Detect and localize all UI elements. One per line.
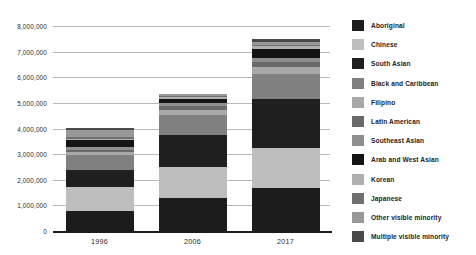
legend-item: Latin American (352, 112, 476, 131)
bar-segment (159, 198, 227, 231)
legend-item: Arab and West Asian (352, 150, 476, 169)
y-tick-label: 8,000,000 (17, 23, 47, 30)
bar-segment (159, 115, 227, 135)
legend-label: Japanese (371, 195, 402, 202)
bar-segment (66, 155, 134, 170)
bar-segment (66, 187, 134, 211)
bar-2006 (159, 94, 227, 231)
legend-item: South Asian (352, 54, 476, 73)
stacked-bar-chart: 01,000,0002,000,0003,000,0004,000,0005,0… (0, 0, 476, 255)
y-axis: 01,000,0002,000,0003,000,0004,000,0005,0… (0, 0, 50, 255)
y-tick-label: 7,000,000 (17, 48, 47, 55)
legend-label: Arab and West Asian (371, 156, 439, 163)
y-tick-label: 3,000,000 (17, 151, 47, 158)
x-tick-label: 1996 (66, 237, 134, 246)
y-tick-label: 0 (43, 228, 47, 235)
y-tick-label: 5,000,000 (17, 99, 47, 106)
legend-label: Aboriginal (371, 22, 405, 29)
legend-label: Other visible minority (371, 214, 441, 221)
bar-1996 (66, 128, 134, 231)
legend-label: Filipino (371, 99, 395, 106)
legend-swatch-icon (352, 97, 364, 108)
legend-swatch-icon (352, 212, 364, 223)
legend-item: Southeast Asian (352, 131, 476, 150)
legend-label: Chinese (371, 41, 398, 48)
legend-item: Black and Caribbean (352, 74, 476, 93)
bar-segment (66, 140, 134, 147)
bar-segment (159, 135, 227, 168)
chart-legend: AboriginalChineseSouth AsianBlack and Ca… (352, 16, 476, 246)
bar-2017 (252, 39, 320, 231)
legend-item: Filipino (352, 93, 476, 112)
legend-swatch-icon (352, 58, 364, 69)
bars-layer (53, 0, 332, 255)
x-tick-label: 2006 (159, 237, 227, 246)
legend-item: Japanese (352, 189, 476, 208)
legend-swatch-icon (352, 231, 364, 242)
plot-area: 01,000,0002,000,0003,000,0004,000,0005,0… (0, 0, 340, 255)
x-tick-label: 2017 (252, 237, 320, 246)
x-axis: 199620062017 (53, 235, 332, 253)
legend-item: Other visible minority (352, 208, 476, 227)
legend-label: Southeast Asian (371, 137, 424, 144)
legend-item: Multiple visible minority (352, 227, 476, 246)
bar-segment (252, 99, 320, 148)
legend-swatch-icon (352, 174, 364, 185)
bar-segment (252, 74, 320, 98)
bar-segment (252, 67, 320, 74)
bar-segment (252, 148, 320, 188)
bar-segment (66, 130, 134, 138)
bar-segment (252, 49, 320, 58)
bar-segment (66, 211, 134, 232)
legend-swatch-icon (352, 135, 364, 146)
legend-item: Aboriginal (352, 16, 476, 35)
legend-swatch-icon (352, 154, 364, 165)
legend-swatch-icon (352, 193, 364, 204)
legend-label: Multiple visible minority (371, 233, 449, 240)
y-tick-label: 4,000,000 (17, 125, 47, 132)
legend-swatch-icon (352, 116, 364, 127)
legend-label: Latin American (371, 118, 420, 125)
bar-segment (159, 167, 227, 198)
legend-swatch-icon (352, 78, 364, 89)
legend-label: Korean (371, 176, 394, 183)
legend-swatch-icon (352, 39, 364, 50)
y-tick-label: 1,000,000 (17, 202, 47, 209)
legend-item: Korean (352, 170, 476, 189)
legend-label: South Asian (371, 60, 411, 67)
legend-swatch-icon (352, 20, 364, 31)
bar-segment (66, 170, 134, 187)
y-tick-label: 2,000,000 (17, 176, 47, 183)
legend-label: Black and Caribbean (371, 80, 439, 87)
legend-item: Chinese (352, 35, 476, 54)
bar-segment (252, 188, 320, 231)
y-tick-label: 6,000,000 (17, 74, 47, 81)
